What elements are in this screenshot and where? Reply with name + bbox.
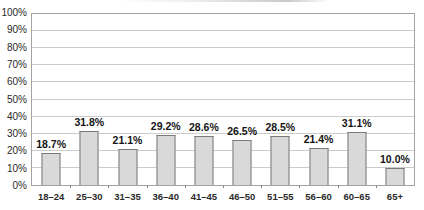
- x-axis-tick: [338, 185, 339, 188]
- x-axis-label: 31–35: [108, 191, 146, 202]
- plot-area: 18.7%31.8%21.1%29.2%28.6%26.5%28.5%21.4%…: [31, 13, 415, 186]
- bar: [80, 131, 99, 185]
- x-axis-tick: [299, 185, 300, 188]
- bar-cell: 26.5%: [223, 14, 261, 185]
- bar: [118, 149, 137, 185]
- bar-cell: 31.8%: [70, 14, 108, 185]
- bar-value-label: 26.5%: [227, 126, 257, 137]
- bar-value-label: 21.1%: [113, 135, 143, 146]
- bar: [156, 135, 175, 185]
- bar-value-label: 18.7%: [36, 139, 66, 150]
- y-axis-label: 30%: [0, 129, 27, 139]
- bar-cell: 31.1%: [338, 14, 376, 185]
- x-axis-label: 65+: [376, 191, 414, 202]
- y-axis: 0%10%20%30%40%50%60%70%80%90%100%: [0, 0, 27, 210]
- y-axis-label: 70%: [0, 60, 27, 70]
- bar-value-label: 31.1%: [342, 118, 372, 129]
- x-axis-ticks: [32, 185, 414, 189]
- x-axis-tick: [147, 185, 148, 188]
- bar-cell: 21.1%: [108, 14, 146, 185]
- bars-container: 18.7%31.8%21.1%29.2%28.6%26.5%28.5%21.4%…: [32, 14, 414, 185]
- y-axis-label: 100%: [0, 8, 27, 18]
- y-axis-label: 20%: [0, 146, 27, 156]
- x-axis-label: 41–45: [185, 191, 223, 202]
- y-axis-label: 0%: [0, 181, 27, 191]
- y-axis-label: 40%: [0, 112, 27, 122]
- y-axis-label: 10%: [0, 164, 27, 174]
- bar-cell: 28.5%: [261, 14, 299, 185]
- bar-cell: 29.2%: [147, 14, 185, 185]
- x-axis-label: 56–60: [299, 191, 337, 202]
- bar-value-label: 29.2%: [151, 121, 181, 132]
- x-axis-tick: [185, 185, 186, 188]
- x-axis-labels: 18–2425–3031–3536–4041–4546–5051–5556–60…: [32, 191, 414, 202]
- bar-value-label: 28.5%: [265, 122, 295, 133]
- bar-cell: 28.6%: [185, 14, 223, 185]
- y-axis-label: 90%: [0, 25, 27, 35]
- x-axis-label: 46–50: [223, 191, 261, 202]
- cropped-title-remnant: [118, 0, 330, 2]
- x-axis-tick: [108, 185, 109, 188]
- bar-value-label: 28.6%: [189, 122, 219, 133]
- bar-value-label: 31.8%: [74, 117, 104, 128]
- x-axis-tick: [70, 185, 71, 188]
- bar: [385, 168, 404, 185]
- x-axis-label: 36–40: [147, 191, 185, 202]
- x-axis-label: 60–65: [338, 191, 376, 202]
- y-axis-label: 50%: [0, 95, 27, 105]
- bar: [233, 140, 252, 185]
- y-axis-label: 80%: [0, 43, 27, 53]
- bar-cell: 21.4%: [299, 14, 337, 185]
- bar: [194, 136, 213, 185]
- bar-value-label: 10.0%: [380, 154, 410, 165]
- x-axis-label: 18–24: [32, 191, 70, 202]
- bar: [309, 148, 328, 185]
- x-axis-label: 51–55: [261, 191, 299, 202]
- bar: [271, 136, 290, 185]
- x-axis-tick: [376, 185, 377, 188]
- bar: [42, 153, 61, 185]
- y-axis-label: 60%: [0, 77, 27, 87]
- bar-cell: 10.0%: [376, 14, 414, 185]
- x-axis-tick: [261, 185, 262, 188]
- bar-chart: 0%10%20%30%40%50%60%70%80%90%100% 18.7%3…: [0, 0, 424, 210]
- bar-cell: 18.7%: [32, 14, 70, 185]
- bar: [347, 132, 366, 185]
- x-axis-tick: [223, 185, 224, 188]
- x-axis-label: 25–30: [70, 191, 108, 202]
- bar-value-label: 21.4%: [304, 134, 334, 145]
